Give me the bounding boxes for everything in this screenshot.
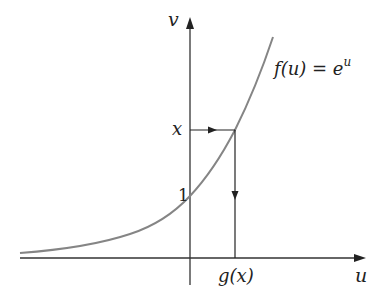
down-arrowhead-icon [232, 191, 239, 200]
input-x-label: x [172, 120, 182, 138]
vertical-mapping-arrow [232, 130, 239, 258]
y-tick-one-label: 1 [178, 187, 189, 204]
v-axis-arrowhead-icon [186, 17, 194, 29]
right-arrowhead-icon [208, 127, 217, 134]
u-axis-label: u [355, 266, 367, 285]
output-gx-label: g(x) [218, 267, 254, 285]
v-axis-label: v [168, 10, 179, 29]
curve-label-exponent: u [343, 55, 351, 69]
curve-label: f(u) = eu [274, 58, 351, 78]
diagram-canvas [0, 0, 378, 291]
curve-label-base: f(u) = e [274, 58, 343, 79]
u-axis-arrowhead-icon [354, 254, 366, 262]
v-axis [186, 17, 194, 285]
horizontal-mapping-arrow [190, 127, 235, 134]
u-axis [20, 254, 366, 262]
